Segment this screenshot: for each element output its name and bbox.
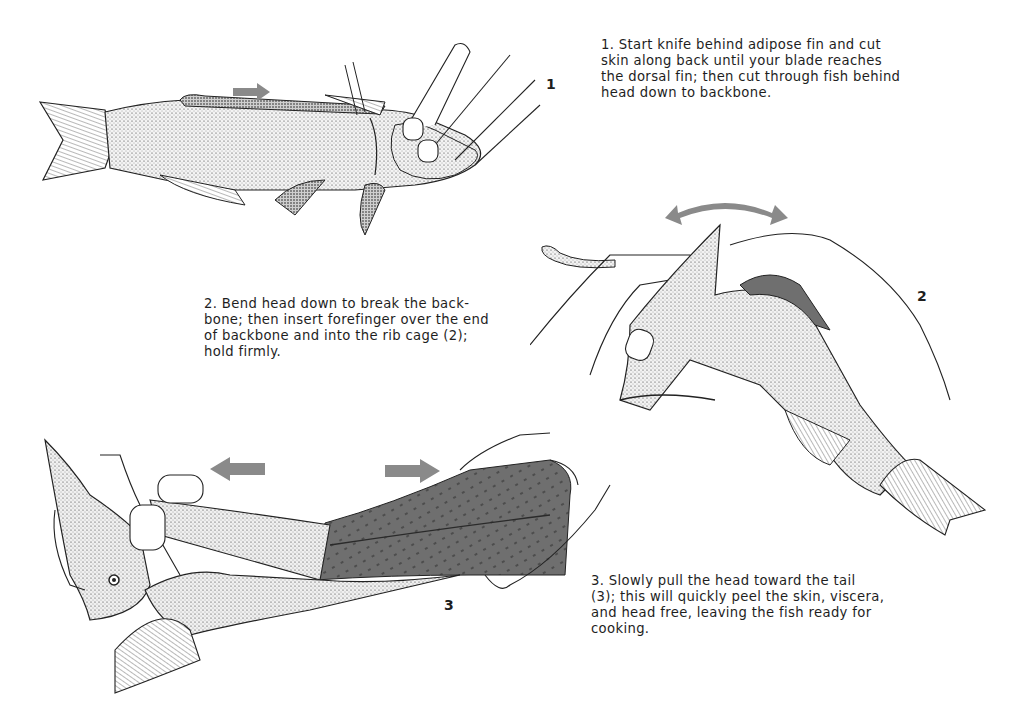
caption-line: 3. Slowly pull the head toward the tail bbox=[591, 573, 911, 589]
step-2-caption: 2. Bend head down to break the back- bon… bbox=[204, 296, 524, 360]
caption-line: (3); this will quickly peel the skin, vi… bbox=[591, 589, 911, 605]
caption-line: hold firmly. bbox=[204, 344, 524, 360]
caption-line: and head free, leaving the fish ready fo… bbox=[591, 605, 911, 621]
caption-line: 2. Bend head down to break the back- bbox=[204, 296, 524, 312]
step-1-caption: 1. Start knife behind adipose fin and cu… bbox=[601, 37, 921, 101]
figure-number-2: 2 bbox=[917, 288, 927, 304]
figure-number-1: 1 bbox=[546, 76, 556, 92]
caption-line: 1. Start knife behind adipose fin and cu… bbox=[601, 37, 921, 53]
caption-line: cooking. bbox=[591, 621, 911, 637]
caption-line: head down to backbone. bbox=[601, 85, 921, 101]
illustration-step-1 bbox=[35, 40, 555, 240]
peeled-skin bbox=[315, 460, 571, 580]
caption-line: of backbone and into the rib cage (2); bbox=[204, 328, 524, 344]
caption-line: the dorsal fin; then cut through fish be… bbox=[601, 69, 921, 85]
caption-line: bone; then insert forefinger over the en… bbox=[204, 312, 524, 328]
illustration-step-3 bbox=[30, 425, 650, 700]
figure-number-3: 3 bbox=[444, 597, 454, 613]
arrow-right-icon bbox=[385, 459, 440, 483]
caption-line: skin along back until your blade reaches bbox=[601, 53, 921, 69]
fish-tail bbox=[40, 102, 115, 180]
step-3-caption: 3. Slowly pull the head toward the tail … bbox=[591, 573, 911, 637]
arrow-left-icon bbox=[210, 457, 265, 481]
arrow-double-curved-icon bbox=[665, 203, 788, 225]
